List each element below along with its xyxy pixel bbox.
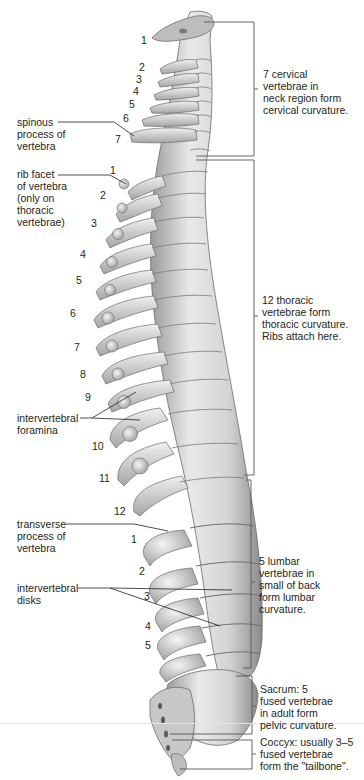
thoracic-number-9: 9 [85, 392, 91, 403]
thoracic-number-10: 10 [92, 441, 104, 452]
thoracic-number-2: 2 [100, 190, 106, 201]
thoracic-number-8: 8 [80, 369, 86, 380]
cervical-number-6: 6 [123, 113, 129, 124]
sacrum-lateral [150, 687, 195, 762]
cervical-number-5: 5 [129, 99, 135, 110]
label-transverse-process: transverse process of vertebra [17, 518, 66, 554]
cervical-number-4: 4 [133, 86, 139, 97]
thoracic-number-5: 5 [76, 275, 82, 286]
thoracic-number-12: 12 [114, 506, 126, 517]
lumbar-number-5: 5 [145, 640, 151, 651]
lumbar-number-4: 4 [145, 621, 151, 632]
thoracic-number-11: 11 [99, 473, 110, 484]
lumbar-number-3: 3 [144, 591, 150, 602]
region-cervical-text: 7 cervical vertebrae in neck region form… [263, 68, 348, 116]
coccyx [171, 753, 186, 776]
label-rib-facet: rib facet of vertebra (only on thoracic … [17, 168, 67, 228]
thoracic-number-6: 6 [70, 308, 76, 319]
region-sacrum-text: Sacrum: 5 fused vertebrae in adult form … [260, 683, 336, 731]
lumbar-number-2: 2 [139, 566, 145, 577]
leader-rib-facet [58, 175, 126, 184]
cervical-number-2: 2 [139, 62, 145, 73]
leader-transverse [66, 524, 168, 531]
label-intervertebral-disks: intervertebral disks [17, 582, 78, 606]
thoracic-number-1: 1 [110, 165, 116, 176]
thoracic-number-4: 4 [80, 249, 86, 260]
lumbar-processes [143, 530, 206, 682]
region-lumbar-text: 5 lumbar vertebrae in small of back form… [259, 555, 320, 615]
lumbar-number-1: 1 [131, 534, 137, 545]
leader-spinous [58, 122, 134, 136]
region-thoracic-text: 12 thoracic vertebrae form thoracic curv… [262, 294, 348, 342]
spine-diagram: spinous process of vertebra rib facet of… [0, 0, 364, 780]
region-coccyx-text: Coccyx: usually 3–5 fused vertebrae form… [260, 736, 353, 772]
label-intervertebral-foramina: intervertebral foramina [17, 412, 78, 436]
cervical-number-7: 7 [115, 134, 121, 145]
label-spinous-process: spinous process of vertebra [17, 116, 65, 152]
cervical-number-3: 3 [136, 74, 142, 85]
thoracic-number-7: 7 [74, 342, 80, 353]
cervical-number-1: 1 [141, 35, 147, 46]
thoracic-number-3: 3 [91, 218, 97, 229]
